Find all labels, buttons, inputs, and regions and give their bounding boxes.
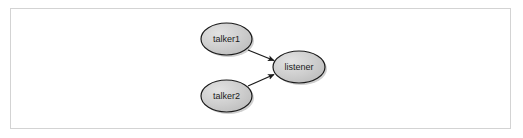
listener-label: listener: [284, 62, 313, 72]
talker2-label: talker2: [213, 91, 240, 101]
edge-layer: [248, 50, 274, 86]
node-graph-diagram: talker1 talker2 listener: [0, 0, 523, 138]
talker1-label: talker1: [213, 34, 240, 44]
edge-talker1-listener: [248, 50, 274, 61]
figure-root: talker1 talker2 listener: [0, 0, 523, 138]
node-talker2[interactable]: talker2: [201, 80, 252, 112]
node-listener[interactable]: listener: [273, 51, 325, 83]
node-talker1[interactable]: talker1: [201, 23, 252, 55]
edge-talker2-listener: [248, 75, 274, 87]
